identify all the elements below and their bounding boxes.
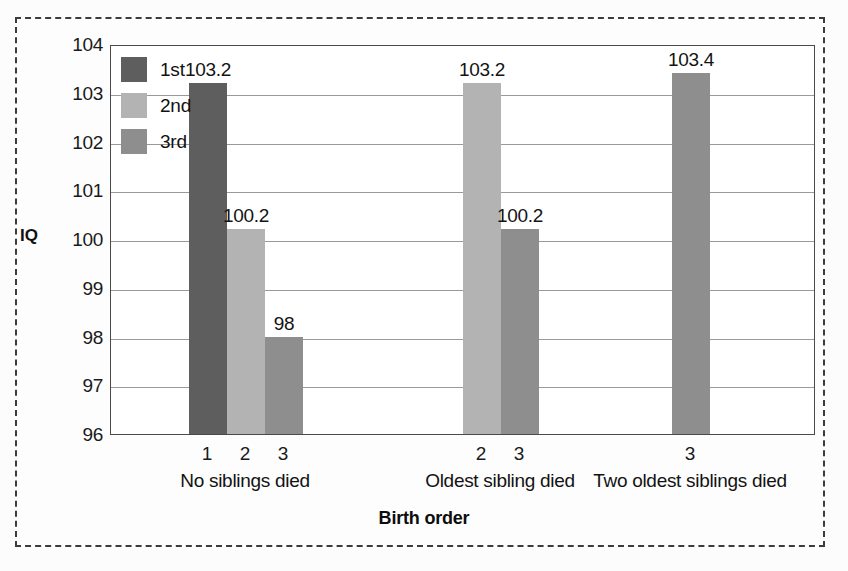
y-tick-label: 101	[57, 180, 103, 202]
x-tick-label: 2	[240, 443, 250, 465]
y-tick-label: 99	[57, 278, 103, 300]
bar-value-label: 98	[274, 313, 295, 335]
x-tick-label: 1	[202, 443, 212, 465]
legend-item: 1st	[121, 54, 226, 85]
legend-label: 3rd	[160, 131, 187, 153]
bar-chart: IQ 10410310210110099989796 103.2100.2981…	[0, 0, 848, 571]
legend-item: 3rd	[121, 126, 226, 157]
bar	[227, 229, 265, 434]
x-tick-label: 3	[514, 443, 524, 465]
x-group-label: Oldest sibling died	[425, 470, 575, 492]
x-tick-label: 2	[476, 443, 486, 465]
x-tick-label: 3	[278, 443, 288, 465]
y-tick-label: 97	[57, 375, 103, 397]
legend-label: 1st	[160, 59, 185, 81]
y-tick-label: 104	[57, 34, 103, 56]
y-tick-label: 98	[57, 327, 103, 349]
y-axis-tick-labels: 10410310210110099989796	[48, 45, 103, 435]
bar	[265, 337, 303, 435]
x-tick-label: 3	[685, 443, 695, 465]
bar	[501, 229, 539, 434]
y-tick-label: 102	[57, 132, 103, 154]
legend-swatch-3rd	[121, 129, 147, 154]
y-tick-label: 100	[57, 229, 103, 251]
y-tick-label: 103	[57, 83, 103, 105]
bar-value-label: 100.2	[497, 205, 543, 227]
x-axis-title: Birth order	[0, 508, 848, 529]
y-axis-title: IQ	[20, 226, 38, 246]
chart-legend: 1st2nd3rd	[121, 54, 226, 162]
x-group-label: Two oldest siblings died	[593, 470, 786, 492]
legend-item: 2nd	[121, 90, 226, 121]
x-group-label: No siblings died	[180, 470, 309, 492]
chart-screenshot: IQ 10410310210110099989796 103.2100.2981…	[0, 0, 848, 571]
bar-value-label: 100.2	[223, 205, 269, 227]
bar-value-label: 103.4	[668, 49, 714, 71]
legend-swatch-2nd	[121, 93, 147, 118]
bar-value-label: 103.2	[459, 59, 505, 81]
bar	[463, 83, 501, 434]
legend-label: 2nd	[160, 95, 191, 117]
bar	[672, 73, 710, 434]
y-tick-label: 96	[57, 424, 103, 446]
legend-swatch-1st	[121, 57, 147, 82]
